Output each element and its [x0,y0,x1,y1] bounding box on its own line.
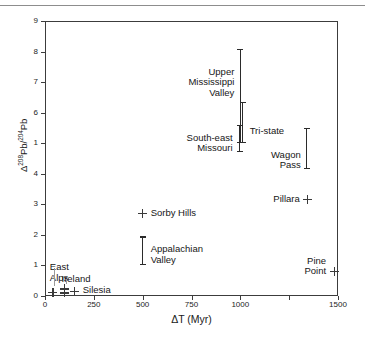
data-point-marker [70,287,79,296]
label-line: Point [304,266,326,277]
x-axis-tick-label: 1000 [220,301,260,309]
range-bar [142,236,144,265]
range-cap-top [237,49,243,51]
y-axis-tick-label: 3 [20,200,38,208]
y-axis-tick-label: 1 [20,139,38,147]
x-axis-tick-label: 0 [25,301,65,309]
range-cap-top [240,102,246,104]
range-bar [242,102,244,143]
y-axis-tick-label: 2 [20,231,38,239]
y-axis-tick-label: 4 [20,170,38,178]
range-cap-top [140,236,146,238]
label-line: Sorby Hills [151,208,196,219]
point-label: Silesia [83,285,111,296]
range-label: South-eastMissouri [187,133,233,154]
page-top-rule [0,5,365,6]
y-axis-tick-label: 8 [20,48,38,56]
data-point-marker [330,267,339,276]
x-axis-tick-label: 250 [74,301,114,309]
range-cap-top [237,125,243,127]
range-bar [239,125,241,153]
x-axis-tick-label: 500 [123,301,163,309]
x-axis-tick [289,296,290,300]
label-line: Missouri [187,143,233,154]
label-line: Valley [188,88,234,99]
data-point-marker [48,288,57,297]
range-label: AppalachianValley [151,244,203,265]
label-line: Pass [271,160,301,171]
data-point-marker-ireland-second [60,284,69,293]
range-cap-bottom [237,151,243,153]
point-label: PinePoint [304,256,326,277]
range-label: Tri-state [250,126,284,137]
range-cap-bottom [304,168,310,170]
label-line: Mississippi [188,77,234,88]
y-axis-tick-label: 0 [20,292,38,300]
figure-scatter-plot: Δ208Pb/204Pb ΔT (Myr) 012341678902505007… [0,0,365,340]
x-axis-title: ΔT (Myr) [45,314,338,325]
label-line: Silesia [83,285,111,296]
y-axis-title-num-sup: 208 [17,155,24,166]
leader-line-east-alps [54,268,55,286]
label-line: Tri-state [250,126,284,137]
range-cap-bottom [140,264,146,266]
x-axis-tick-label: 1500 [318,301,358,309]
x-axis-tick-label: 750 [172,301,212,309]
y-axis-tick-label: 9 [20,17,38,25]
leader-line-ireland [66,279,67,284]
y-axis-tick-label: 7 [20,78,38,86]
data-point-marker [303,195,312,204]
range-label: UpperMississippiValley [188,67,234,99]
range-cap-bottom [240,142,246,144]
point-label: Sorby Hills [151,208,196,219]
label-line: Pillara [273,194,299,205]
y-axis-title-den: Pb [18,119,29,131]
range-label: WagonPass [271,150,301,171]
label-line: Valley [151,255,203,266]
range-bar [306,128,308,169]
range-cap-top [304,128,310,130]
y-axis-tick-label: 1 [20,261,38,269]
y-axis-tick-label: 6 [20,109,38,117]
data-point-marker [138,209,147,218]
point-label: Pillara [273,194,299,205]
